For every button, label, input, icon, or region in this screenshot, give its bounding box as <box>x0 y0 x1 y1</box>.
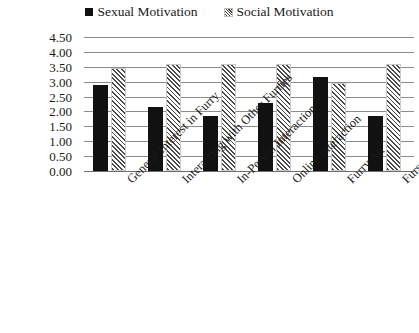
x-axis-category-labels: General Interest in FurryInteracting wit… <box>0 171 419 301</box>
y-axis-tick-labels: 4.504.003.503.002.502.001.501.000.500.00 <box>0 37 78 171</box>
legend-label-social-motivation: Social Motivation <box>237 5 334 19</box>
bar <box>93 85 108 171</box>
y-axis-tick-label: 2.00 <box>49 105 72 118</box>
y-axis-tick-label: 2.50 <box>49 90 72 103</box>
bar <box>111 68 126 171</box>
bar <box>221 64 236 171</box>
x-axis-category-label: Furry Art <box>345 177 354 186</box>
plot-area <box>84 37 414 171</box>
legend-entry-social-motivation: Social Motivation <box>224 5 334 19</box>
hatched-square-icon <box>224 8 233 17</box>
y-axis-tick-label: 3.50 <box>49 60 72 73</box>
y-axis-tick-label: 4.50 <box>49 31 72 44</box>
y-axis-tick-label: 1.50 <box>49 120 72 133</box>
x-axis-category-label: Online Interaction <box>290 177 299 186</box>
legend-label-sexual-motivation: Sexual Motivation <box>97 5 197 19</box>
bars-layer <box>84 37 414 171</box>
x-axis-category-label: Interacting with Other Furries <box>180 177 189 186</box>
filled-square-icon <box>85 8 93 16</box>
y-axis-tick-label: 4.00 <box>49 45 72 58</box>
bar-chart: Sexual Motivation Social Motivation 4.50… <box>0 0 419 333</box>
bar <box>166 64 181 171</box>
chart-legend: Sexual Motivation Social Motivation <box>0 2 419 22</box>
y-axis-tick-label: 0.50 <box>49 150 72 163</box>
y-axis-tick-label: 3.00 <box>49 75 72 88</box>
y-axis-tick-label: 1.00 <box>49 135 72 148</box>
bar <box>386 64 401 171</box>
legend-entry-sexual-motivation: Sexual Motivation <box>85 5 197 19</box>
x-axis-category-label: In-Person Interaction <box>235 177 244 186</box>
x-axis-category-label: General Interest in Furry <box>125 177 134 186</box>
x-axis-category-label: Fursuiting <box>400 177 409 186</box>
bottom-divider <box>0 326 419 327</box>
